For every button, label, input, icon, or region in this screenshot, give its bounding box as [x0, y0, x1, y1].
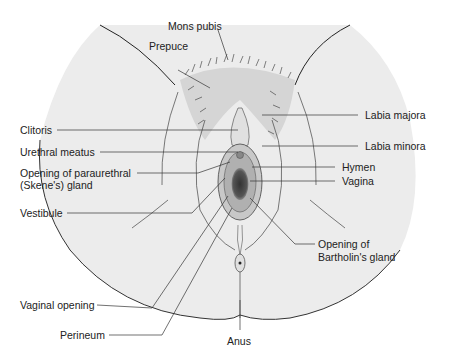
- label-anus: Anus: [227, 335, 251, 347]
- label-hymen: Hymen: [342, 161, 375, 173]
- label-clitoris: Clitoris: [20, 124, 52, 136]
- label-paraurethral-line1: Opening of paraurethral: [20, 167, 131, 179]
- label-mons-pubis: Mons pubis: [168, 20, 222, 32]
- label-paraurethral-line2: (Skene's) gland: [20, 179, 93, 191]
- label-vestibule: Vestibule: [20, 207, 63, 219]
- label-bartholin-line1: Opening of: [318, 238, 369, 250]
- label-bartholin-line2: Bartholin's gland: [318, 251, 395, 263]
- label-labia-minora: Labia minora: [365, 140, 426, 152]
- label-vaginal-opening: Vaginal opening: [20, 299, 95, 311]
- label-perineum: Perineum: [60, 329, 105, 341]
- label-vagina: Vagina: [342, 175, 374, 187]
- label-labia-majora: Labia majora: [365, 109, 426, 121]
- label-prepuce: Prepuce: [149, 40, 188, 52]
- label-urethral-meatus: Urethral meatus: [20, 146, 95, 158]
